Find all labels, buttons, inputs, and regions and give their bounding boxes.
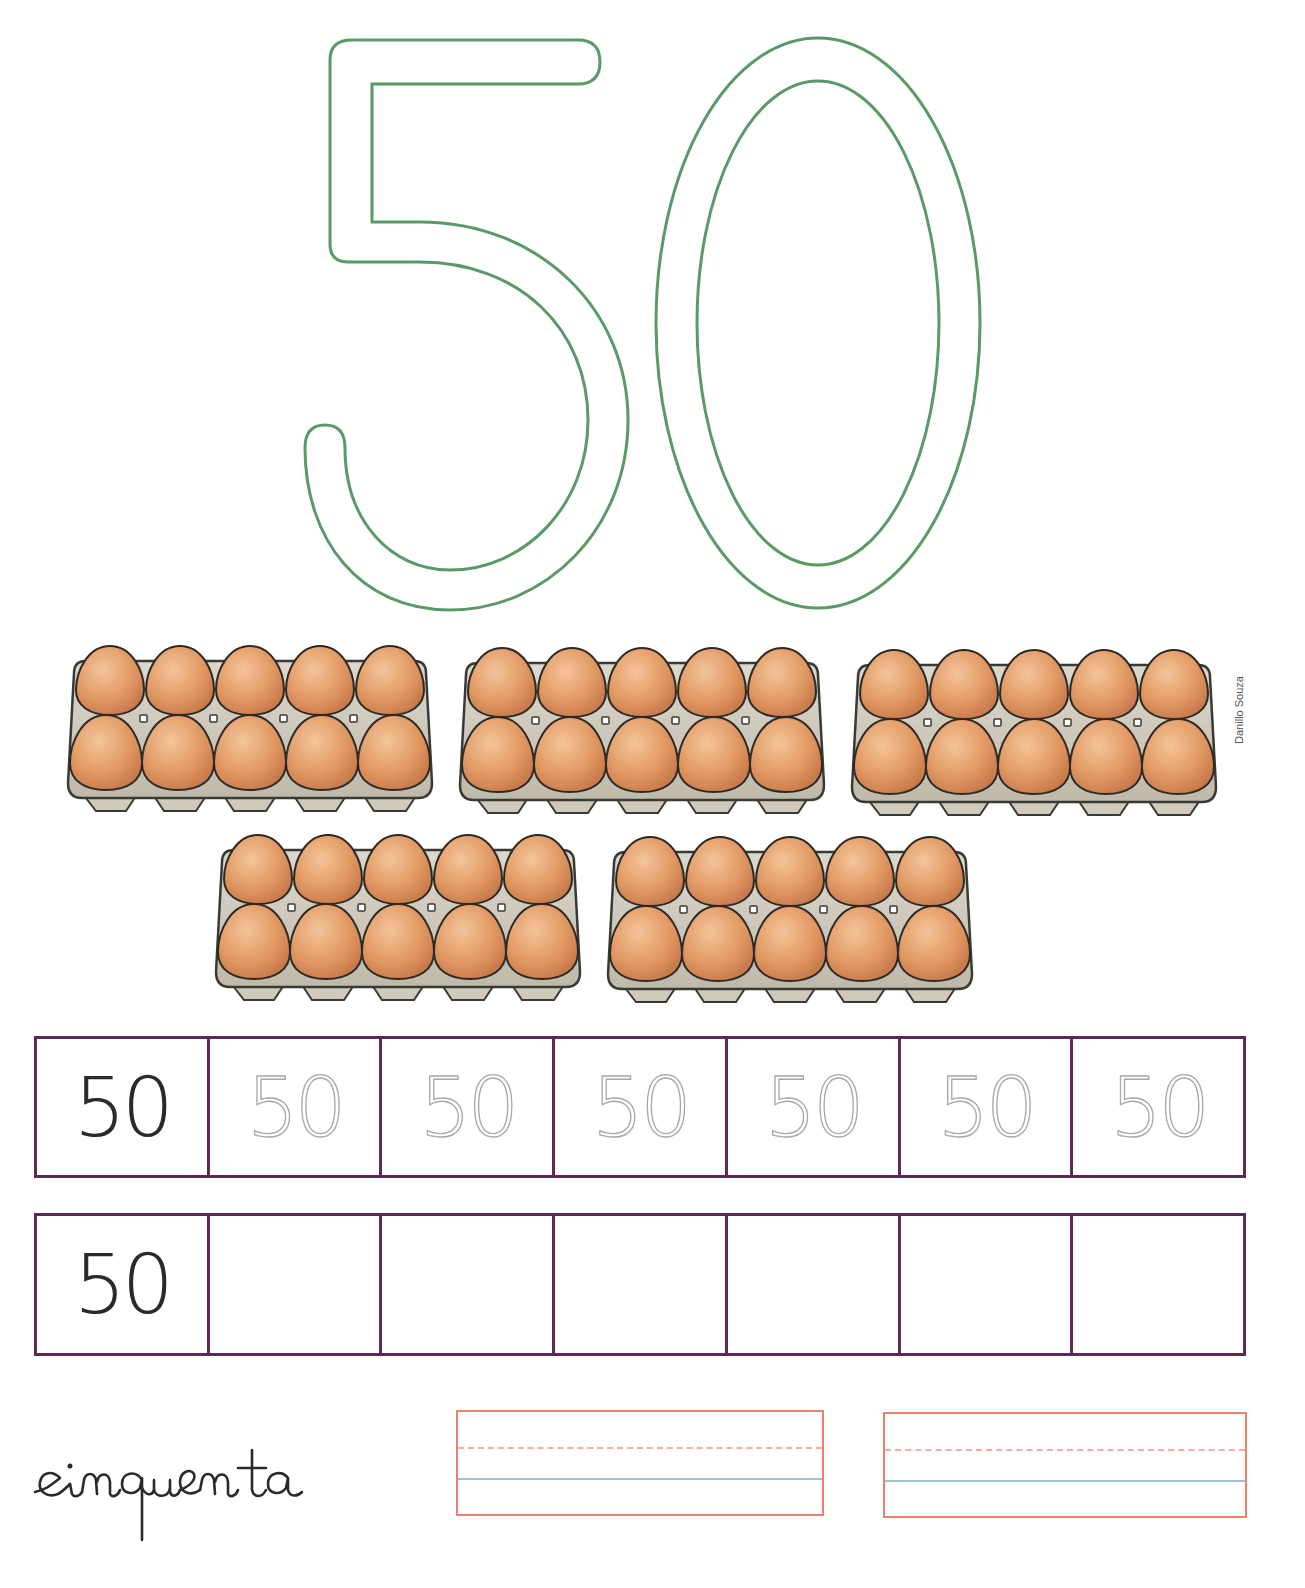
credit-text: Danillo Souza bbox=[1233, 676, 1245, 744]
trace-number-cell[interactable]: 50 bbox=[725, 1039, 898, 1175]
trace-number-cell[interactable]: 50 bbox=[207, 1039, 380, 1175]
model-number-cell: 50 bbox=[37, 1216, 207, 1353]
empty-writing-cell[interactable] bbox=[725, 1216, 898, 1353]
egg-carton-4 bbox=[208, 832, 588, 1007]
model-number-cell: 50 bbox=[37, 1039, 207, 1175]
baseline-guide bbox=[458, 1478, 822, 1480]
empty-writing-cell[interactable] bbox=[207, 1216, 380, 1353]
midline-guide bbox=[458, 1447, 822, 1449]
outlined-number-fifty bbox=[0, 0, 1305, 630]
trace-number-cell[interactable]: 50 bbox=[898, 1039, 1071, 1175]
empty-writing-cell[interactable] bbox=[379, 1216, 552, 1353]
writing-row: 50 bbox=[34, 1213, 1246, 1356]
trace-number-cell[interactable]: 50 bbox=[552, 1039, 725, 1175]
illustrator-credit: Danillo Souza bbox=[1226, 660, 1252, 760]
baseline-guide bbox=[885, 1480, 1245, 1482]
word-writing-box-1[interactable] bbox=[456, 1410, 824, 1516]
egg-carton-3 bbox=[844, 647, 1224, 822]
egg-carton-1 bbox=[60, 643, 440, 818]
empty-writing-cell[interactable] bbox=[1070, 1216, 1243, 1353]
tracing-row: 50 50 50 50 50 50 50 bbox=[34, 1036, 1246, 1178]
trace-number-cell[interactable]: 50 bbox=[1070, 1039, 1243, 1175]
egg-carton-5 bbox=[600, 834, 980, 1009]
cursive-word-cinquenta: cinquenta bbox=[30, 1440, 410, 1560]
word-writing-box-2[interactable] bbox=[883, 1412, 1247, 1518]
egg-carton-2 bbox=[452, 645, 832, 820]
empty-writing-cell[interactable] bbox=[898, 1216, 1071, 1353]
empty-writing-cell[interactable] bbox=[552, 1216, 725, 1353]
trace-number-cell[interactable]: 50 bbox=[379, 1039, 552, 1175]
midline-guide bbox=[885, 1449, 1245, 1451]
